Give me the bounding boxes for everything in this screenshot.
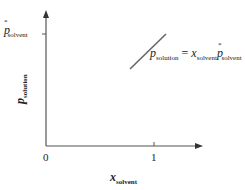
equation-annotation: psolution = xsolventp*solvent — [150, 47, 242, 59]
y-label-p: p — [13, 98, 27, 104]
y-tick-star: * — [4, 18, 8, 26]
x-axis-arrow-icon — [195, 143, 203, 149]
y-tick-sub: solvent — [8, 31, 28, 39]
y-axis-arrow-icon — [43, 10, 49, 18]
eq-p-sub: solution — [156, 54, 179, 62]
eq-equals: = — [182, 46, 189, 60]
y-axis-label: psolution — [14, 74, 26, 104]
eq-p2-star: * — [218, 41, 222, 49]
x-tick-label-1: 1 — [151, 152, 157, 163]
y-label-sub: solution — [21, 74, 29, 98]
chart-canvas — [0, 0, 245, 190]
eq-p2-sub: solvent — [221, 54, 241, 62]
x-tick-label-0: 0 — [43, 152, 49, 163]
y-tick-label: p*solvent — [4, 24, 28, 36]
eq-x-sub: solvent — [197, 54, 217, 62]
x-label-sub: solvent — [116, 178, 137, 186]
x-axis-label: xsolvent — [110, 171, 137, 183]
